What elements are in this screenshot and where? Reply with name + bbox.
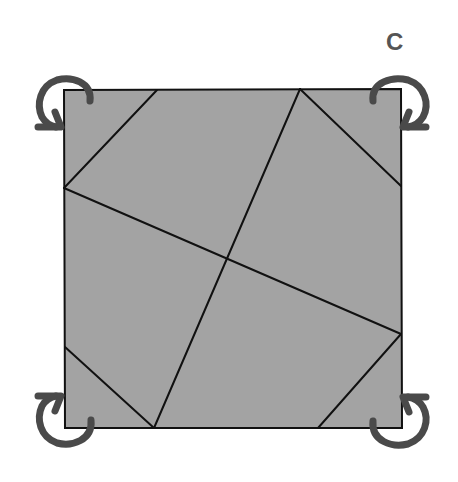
- diagram-canvas: [0, 0, 458, 482]
- paper-square: [64, 89, 402, 428]
- diagram-label: C: [386, 28, 403, 56]
